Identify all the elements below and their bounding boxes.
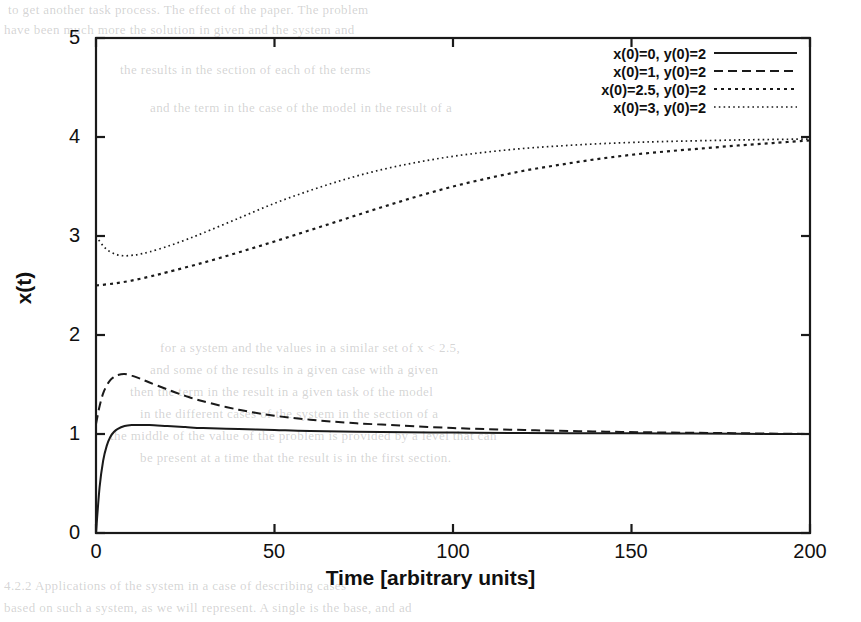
ytick-label-4: 4 [46,125,80,148]
x-axis-label: Time [arbitrary units] [0,566,861,590]
ytick-label-1: 1 [46,422,80,445]
xtick-label-50: 50 [244,540,304,563]
y-axis-label: x(t) [12,248,36,328]
curve-series-0 [96,425,810,533]
ytick-label-3: 3 [46,224,80,247]
legend-line-samples [714,53,797,107]
legend-label-3: x(0)=3, y(0)=2 [476,100,706,116]
xtick-label-200: 200 [780,540,840,563]
chart-figure: 0 1 2 3 4 5 0 50 100 150 200 Time [arbit… [0,0,861,622]
xtick-label-0: 0 [66,540,126,563]
curve-series-3 [96,139,810,256]
legend-label-0: x(0)=0, y(0)=2 [476,46,706,62]
curve-series-2 [96,140,810,285]
data-curves [96,139,810,533]
legend-label-1: x(0)=1, y(0)=2 [476,64,706,80]
xtick-label-150: 150 [601,540,661,563]
ytick-label-2: 2 [46,323,80,346]
xtick-label-100: 100 [423,540,483,563]
plot-area [0,0,861,622]
curve-series-1 [96,374,810,434]
legend-label-2: x(0)=2.5, y(0)=2 [476,82,706,98]
ytick-label-5: 5 [46,26,80,49]
